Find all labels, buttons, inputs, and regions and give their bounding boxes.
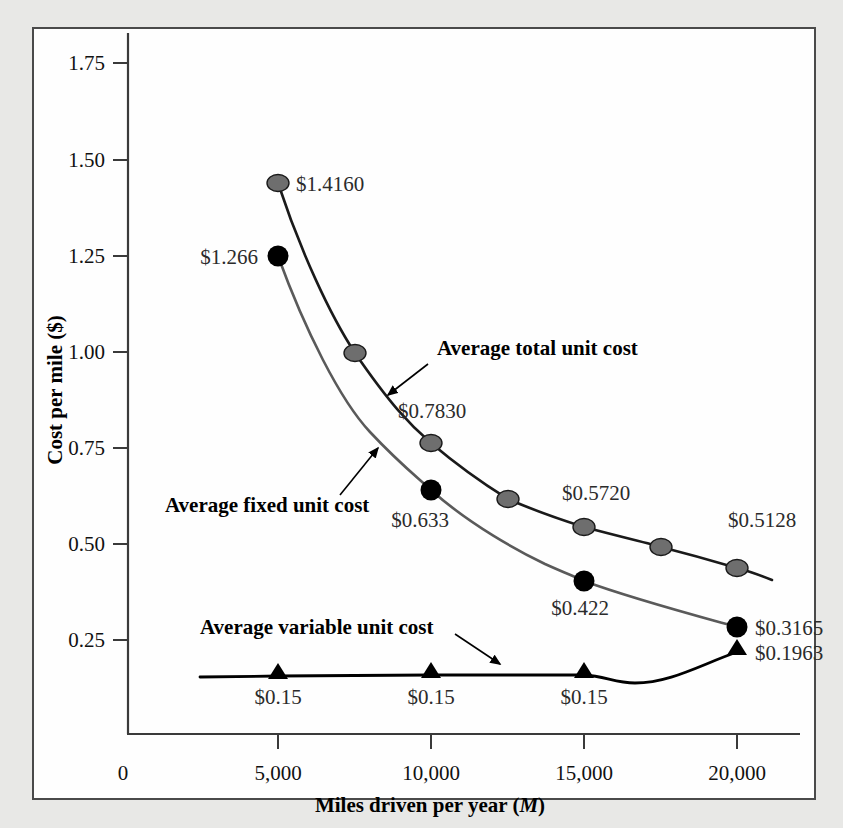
- average-total-unit-cost-curve: [278, 183, 772, 580]
- total-marker-12500: [497, 491, 519, 508]
- total-marker-10000: [420, 435, 442, 452]
- fixed-value-label-15000: $0.422: [551, 596, 609, 620]
- y-tick-label-0-75: 0.75: [68, 436, 105, 460]
- average-variable-unit-cost-series: $0.15 $0.15 $0.15 $0.1963: [200, 639, 823, 709]
- total-marker-15000: [573, 519, 595, 536]
- annotation-total-arrow: [388, 364, 428, 395]
- x-tick-labels: 0 5,000 10,000 15,000 20,000: [118, 761, 766, 785]
- y-tick-label-0-25: 0.25: [68, 628, 105, 652]
- y-axis-title: Cost per mile ($): [43, 315, 67, 465]
- x-axis-title-main: Miles driven per year (: [315, 793, 520, 817]
- x-tick-label-15000: 15,000: [555, 761, 613, 785]
- variable-marker-10000: [421, 662, 441, 678]
- x-tick-label-10000: 10,000: [402, 761, 460, 785]
- total-value-label-5000: $1.4160: [296, 172, 364, 196]
- x-tick-label-0: 0: [118, 761, 129, 785]
- annotation-variable-arrow: [455, 634, 500, 664]
- total-marker-7500: [344, 345, 366, 362]
- total-value-label-15000: $0.5720: [562, 481, 630, 505]
- average-fixed-unit-cost-series: $1.266 $0.633 $0.422 $0.3165: [200, 245, 823, 640]
- annotation-average-total-unit-cost: Average total unit cost: [388, 336, 638, 395]
- chart-page: 1.75 1.50 1.25 1.00 0.75 0.50 0.25 0 5,0…: [0, 0, 843, 828]
- annotation-average-variable-unit-cost: Average variable unit cost: [200, 615, 500, 664]
- x-axis-title-end: ): [538, 793, 545, 817]
- total-marker-17500: [650, 539, 672, 556]
- variable-marker-5000: [268, 663, 288, 679]
- y-tick-label-1-25: 1.25: [68, 244, 105, 268]
- y-tick-label-1-75: 1.75: [68, 51, 105, 75]
- total-marker-5000: [267, 175, 289, 192]
- total-marker-20000: [726, 560, 748, 577]
- y-tick-label-0-50: 0.50: [68, 532, 105, 556]
- fixed-marker-15000: [574, 571, 595, 592]
- variable-value-label-10000: $0.15: [407, 685, 454, 709]
- x-axis-title: Miles driven per year (M): [315, 793, 545, 817]
- annotation-average-fixed-unit-cost: Average fixed unit cost: [165, 448, 378, 517]
- annotation-variable-label: Average variable unit cost: [200, 615, 433, 639]
- variable-value-label-20000: $0.1963: [755, 641, 823, 665]
- fixed-marker-10000: [421, 480, 442, 501]
- total-value-label-10000: $0.7830: [398, 399, 466, 423]
- fixed-value-label-5000: $1.266: [200, 245, 258, 269]
- annotation-fixed-arrow: [340, 448, 378, 495]
- annotation-total-label: Average total unit cost: [437, 336, 638, 360]
- y-tick-label-1-50: 1.50: [68, 148, 105, 172]
- annotation-fixed-label: Average fixed unit cost: [165, 493, 369, 517]
- variable-value-label-15000: $0.15: [560, 685, 607, 709]
- fixed-value-label-20000: $0.3165: [755, 616, 823, 640]
- variable-value-label-5000: $0.15: [254, 685, 301, 709]
- variable-marker-20000: [727, 639, 747, 655]
- x-axis-title-variable: M: [518, 793, 539, 817]
- fixed-marker-20000: [727, 617, 748, 638]
- x-tick-label-5000: 5,000: [254, 761, 301, 785]
- total-value-label-20000: $0.5128: [728, 508, 796, 532]
- y-tick-labels: 1.75 1.50 1.25 1.00 0.75 0.50 0.25: [68, 51, 105, 652]
- average-total-unit-cost-series: $1.4160 $0.7830 $0.5720 $0.5128: [267, 172, 796, 580]
- cost-per-mile-chart: 1.75 1.50 1.25 1.00 0.75 0.50 0.25 0 5,0…: [0, 0, 843, 828]
- fixed-value-label-10000: $0.633: [391, 508, 449, 532]
- y-tick-label-1-00: 1.00: [68, 340, 105, 364]
- average-fixed-unit-cost-curve: [278, 256, 737, 627]
- variable-marker-15000: [574, 662, 594, 678]
- axes-group: [113, 33, 800, 749]
- x-tick-label-20000: 20,000: [708, 761, 766, 785]
- fixed-marker-5000: [268, 246, 289, 267]
